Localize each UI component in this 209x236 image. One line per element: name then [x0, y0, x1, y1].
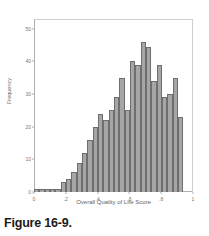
- x-axis-tick-mark: [129, 192, 130, 194]
- figure-caption: Figure 16-9.: [4, 216, 72, 230]
- x-axis-tick-mark: [193, 192, 194, 194]
- histogram-chart: 01020304050 Frequency 0.2.4.6.81 Overall…: [0, 0, 209, 205]
- x-axis-tick-mark: [65, 192, 66, 194]
- histogram-bars: [34, 19, 193, 192]
- figure-16-9: 01020304050 Frequency 0.2.4.6.81 Overall…: [0, 0, 209, 236]
- histogram-bar: [178, 117, 183, 192]
- x-axis-tick-mark: [34, 192, 35, 194]
- y-axis-tick-mark: [32, 28, 34, 29]
- y-axis-tick-mark: [32, 159, 34, 160]
- x-axis-tick-mark: [161, 192, 162, 194]
- x-axis-label: Overall Quality of Life Score: [34, 199, 193, 205]
- y-axis-tick-mark: [32, 126, 34, 127]
- y-axis-tick-mark: [32, 94, 34, 95]
- y-axis-label: Frequency: [6, 56, 12, 126]
- x-axis-tick-mark: [97, 192, 98, 194]
- y-axis-tick-mark: [32, 61, 34, 62]
